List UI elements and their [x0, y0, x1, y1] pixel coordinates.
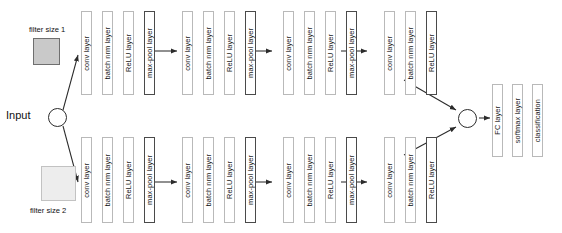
layer-label: batch nrm layer	[205, 154, 212, 206]
branch-top-layer-7-max-pool-layer: max-pool layer	[245, 11, 256, 95]
branch-top-layer-3-max-pool-layer: max-pool layer	[144, 11, 155, 95]
layer-label: batch nrm layer	[205, 27, 212, 79]
cnn-architecture-diagram: filter size 1 filter size 2 Input conv l…	[0, 0, 562, 233]
branch-top-layer-9-batch-nrm-layer: batch nrm layer	[304, 11, 315, 95]
branch-top-layer-8-conv-layer: conv layer	[283, 11, 294, 95]
branch-bottom-layer-14-relu-layer: ReLU layer	[426, 137, 437, 223]
branch-top-layer-10-relu-layer: ReLU layer	[325, 11, 336, 95]
branch-top-layer-13-batch-nrm-layer: batch nrm layer	[405, 11, 416, 95]
branch-top-layer-1-batch-nrm-layer: batch nrm layer	[102, 11, 113, 95]
merge-node	[458, 109, 477, 128]
filter-size-2-label: filter size 2	[30, 206, 66, 215]
layer-label: batch nrm layer	[104, 27, 111, 79]
branch-top-layer-14-relu-layer: ReLU layer	[426, 11, 437, 95]
layer-label: max-pool layer	[247, 155, 254, 205]
layer-label: max-pool layer	[348, 155, 355, 205]
branch-bottom-layer-11-max-pool-layer: max-pool layer	[346, 137, 357, 223]
layer-label: ReLU layer	[428, 161, 435, 199]
layer-label: conv layer	[386, 36, 393, 71]
branch-top-layer-6-relu-layer: ReLU layer	[224, 11, 235, 95]
layer-label: ReLU layer	[125, 34, 132, 72]
filter-size-2-swatch	[41, 166, 76, 201]
branch-top-layer-11-max-pool-layer: max-pool layer	[346, 11, 357, 95]
branch-bottom-layer-5-batch-nrm-layer: batch nrm layer	[203, 137, 214, 223]
edge-input-to-top-branch	[63, 55, 78, 110]
branch-top-layer-0-conv-layer: conv layer	[81, 11, 92, 95]
layer-label: batch nrm layer	[306, 27, 313, 79]
layer-label: ReLU layer	[327, 34, 334, 72]
branch-bottom-layer-10-relu-layer: ReLU layer	[325, 137, 336, 223]
branch-top-layer-2-relu-layer: ReLU layer	[123, 11, 134, 95]
layer-label: max-pool layer	[348, 28, 355, 78]
branch-bottom-layer-3-max-pool-layer: max-pool layer	[144, 137, 155, 223]
branch-top-layer-12-conv-layer: conv layer	[384, 11, 395, 95]
branch-bottom-layer-9-batch-nrm-layer: batch nrm layer	[304, 137, 315, 223]
branch-top-layer-4-conv-layer: conv layer	[182, 11, 193, 95]
layer-label: FC layer	[494, 106, 501, 135]
layer-label: ReLU layer	[226, 161, 233, 199]
layer-label: conv layer	[83, 163, 90, 198]
layer-label: softmax layer	[514, 98, 521, 143]
layer-label: max-pool layer	[146, 28, 153, 78]
branch-bottom-layer-13-batch-nrm-layer: batch nrm layer	[405, 137, 416, 223]
branch-bottom-layer-0-conv-layer: conv layer	[81, 137, 92, 223]
layer-label: batch nrm layer	[306, 154, 313, 206]
branch-bottom-layer-2-relu-layer: ReLU layer	[123, 137, 134, 223]
branch-bottom-layer-12-conv-layer: conv layer	[384, 137, 395, 223]
head-layer-classification: classification	[532, 84, 543, 157]
layer-label: batch nrm layer	[104, 154, 111, 206]
layer-label: ReLU layer	[125, 161, 132, 199]
branch-top-layer-5-batch-nrm-layer: batch nrm layer	[203, 11, 214, 95]
layer-label: conv layer	[184, 36, 191, 71]
head-layer-fc-layer: FC layer	[492, 84, 503, 157]
layer-label: batch nrm layer	[407, 27, 414, 79]
layer-label: ReLU layer	[327, 161, 334, 199]
layer-label: ReLU layer	[428, 34, 435, 72]
layer-label: max-pool layer	[247, 28, 254, 78]
filter-size-1-swatch	[33, 38, 60, 65]
branch-bottom-layer-7-max-pool-layer: max-pool layer	[245, 137, 256, 223]
head-layer-softmax-layer: softmax layer	[512, 84, 523, 157]
branch-bottom-layer-8-conv-layer: conv layer	[283, 137, 294, 223]
layer-label: batch nrm layer	[407, 154, 414, 206]
layer-label: max-pool layer	[146, 155, 153, 205]
layer-label: classification	[534, 99, 541, 142]
layer-label: conv layer	[285, 36, 292, 71]
input-node	[48, 108, 67, 127]
filter-size-1-label: filter size 1	[29, 25, 65, 34]
layer-label: conv layer	[83, 36, 90, 71]
layer-label: conv layer	[184, 163, 191, 198]
branch-bottom-layer-4-conv-layer: conv layer	[182, 137, 193, 223]
branch-bottom-layer-1-batch-nrm-layer: batch nrm layer	[102, 137, 113, 223]
layer-label: conv layer	[386, 163, 393, 198]
layer-label: conv layer	[285, 163, 292, 198]
input-label: Input	[6, 109, 30, 121]
layer-label: ReLU layer	[226, 34, 233, 72]
branch-bottom-layer-6-relu-layer: ReLU layer	[224, 137, 235, 223]
